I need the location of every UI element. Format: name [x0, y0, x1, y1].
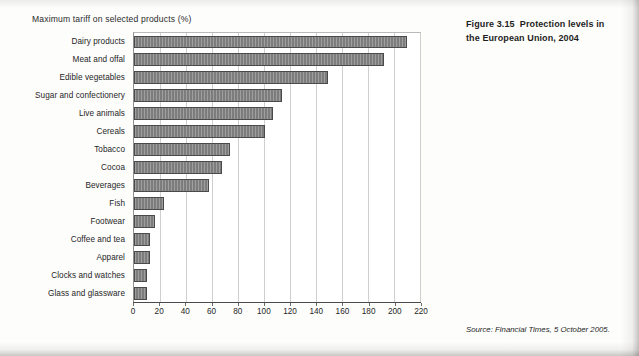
plot-wrapper: Dairy productsMeat and offalEdible veget…: [30, 32, 442, 322]
bar: [134, 287, 147, 300]
x-axis-tick: [133, 303, 134, 306]
bar: [134, 251, 150, 264]
y-axis-label: Meat and offal: [30, 50, 130, 68]
y-axis-label: Clocks and watches: [30, 266, 130, 284]
y-axis-label: Footwear: [30, 212, 130, 230]
x-axis-tick-label: 140: [309, 307, 323, 316]
y-axis-label: Tobacco: [30, 140, 130, 158]
bar: [134, 215, 155, 228]
x-axis-tick-label: 220: [414, 307, 428, 316]
y-axis-category-labels: Dairy productsMeat and offalEdible veget…: [30, 32, 130, 302]
page-shadow-right: [621, 0, 639, 356]
bar: [134, 71, 328, 84]
bar-row: [134, 51, 420, 69]
bar-row: [134, 212, 420, 230]
y-axis-label: Coffee and tea: [30, 230, 130, 248]
bar-row: [134, 194, 420, 212]
y-axis-label: Dairy products: [30, 32, 130, 50]
x-axis-tick: [316, 303, 317, 306]
bar-row: [134, 105, 420, 123]
bar: [134, 197, 164, 210]
bar-row: [134, 266, 420, 284]
bar-chart: Maximum tariff on selected products (%) …: [30, 14, 442, 344]
x-axis-tick: [238, 303, 239, 306]
bar: [134, 53, 384, 66]
bar-row: [134, 248, 420, 266]
x-axis-tick-label: 80: [233, 307, 242, 316]
y-axis-label: Cocoa: [30, 158, 130, 176]
figure-caption: Figure 3.15 Protection levels in the Eur…: [466, 18, 616, 45]
y-axis-label: Sugar and confectionery: [30, 86, 130, 104]
bar: [134, 107, 273, 120]
bar-row: [134, 33, 420, 51]
bar: [134, 179, 209, 192]
x-axis-tick: [369, 303, 370, 306]
x-axis-tick: [264, 303, 265, 306]
bar: [134, 89, 282, 102]
y-axis-label: Cereals: [30, 122, 130, 140]
x-axis-tick: [212, 303, 213, 306]
y-axis-label: Live animals: [30, 104, 130, 122]
source-date: , 5 October 2005.: [550, 325, 610, 334]
bar-row: [134, 284, 420, 302]
y-axis-label: Glass and glassware: [30, 284, 130, 302]
bar: [134, 143, 230, 156]
bar-row: [134, 123, 420, 141]
bar-row: [134, 141, 420, 159]
bar: [134, 36, 407, 49]
y-axis-label: Apparel: [30, 248, 130, 266]
bar: [134, 269, 147, 282]
source-label: Source:: [466, 325, 493, 334]
figure-number: Figure 3.15: [466, 19, 515, 29]
x-axis-tick-label: 0: [131, 307, 136, 316]
bar-row: [134, 230, 420, 248]
bar-row: [134, 87, 420, 105]
figure-page: Maximum tariff on selected products (%) …: [0, 0, 639, 356]
y-axis-label: Fish: [30, 194, 130, 212]
bar: [134, 161, 222, 174]
chart-title: Maximum tariff on selected products (%): [32, 14, 442, 24]
x-axis-tick-label: 180: [362, 307, 376, 316]
page-shadow-top: [0, 0, 639, 8]
x-axis-tick-label: 160: [336, 307, 350, 316]
source-publication: Financial Times: [495, 325, 550, 334]
y-axis-label: Beverages: [30, 176, 130, 194]
x-axis-tick: [395, 303, 396, 306]
x-axis-tick-label: 60: [207, 307, 216, 316]
page-shadow-bottom: [0, 342, 639, 356]
x-axis-tick-label: 40: [181, 307, 190, 316]
bar: [134, 233, 150, 246]
y-axis-label: Edible vegetables: [30, 68, 130, 86]
x-axis-tick: [421, 303, 422, 306]
x-axis-tick: [290, 303, 291, 306]
bar-row: [134, 69, 420, 87]
x-axis-tick: [159, 303, 160, 306]
x-axis-tick-labels: 020406080100120140160180200220: [133, 307, 421, 321]
bar-row: [134, 159, 420, 177]
gridline: [420, 33, 421, 302]
x-axis-tick: [185, 303, 186, 306]
x-axis-tick-label: 20: [155, 307, 164, 316]
bar-row: [134, 177, 420, 195]
bar-series: [134, 33, 420, 302]
x-axis-tick-label: 100: [257, 307, 271, 316]
x-axis-tick-label: 120: [283, 307, 297, 316]
plot-area: [133, 32, 421, 302]
x-axis-tick: [342, 303, 343, 306]
x-axis-tick-label: 200: [388, 307, 402, 316]
source-note: Source: Financial Times, 5 October 2005.: [466, 325, 631, 334]
bar: [134, 125, 265, 138]
